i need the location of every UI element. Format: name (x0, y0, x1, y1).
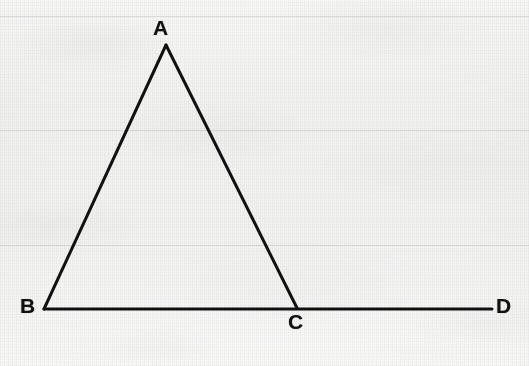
geometry-figure-canvas: A B C D (0, 0, 529, 366)
segment-ac (166, 45, 297, 308)
vertex-label-a: A (153, 17, 168, 38)
vertex-label-c: C (288, 311, 303, 332)
vertex-label-d: D (496, 295, 511, 316)
segment-ab (44, 45, 166, 309)
figure-drawing (0, 0, 529, 366)
vertex-label-b: B (20, 295, 35, 316)
